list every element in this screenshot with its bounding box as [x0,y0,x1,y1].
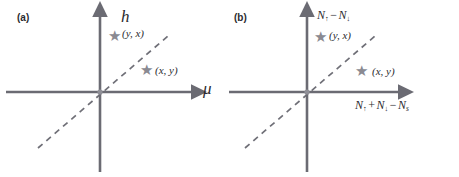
panel-b-y-n2: N [339,8,347,22]
star-icon: ★ [314,30,327,45]
panel-a-origin-marker [97,89,102,94]
panel-b-y-op1: − [329,8,339,22]
panel-b-origin-marker [304,89,309,94]
panel-b-y-n1: N [317,8,325,22]
panel-b-star-lower: ★ (x, y) [355,64,395,79]
panel-b: (b) N↑−N↓ N↑+N↓−Ns ★ (y, [229,0,459,177]
panel-b-x-n1: N [355,98,363,112]
panel-b-x-op1: + [367,98,377,112]
panel-a-star-upper-label: (y, x) [122,28,144,39]
panel-a-x-axis-label: μ [203,80,212,97]
figure-root: (a) h μ ★ (y, x) ★ (x, y) [0,0,459,177]
star-icon: ★ [355,64,368,79]
panel-a-star-lower-label: (x, y) [155,65,178,76]
panel-b-axes [229,0,459,177]
star-icon: ★ [108,29,121,44]
panel-b-x-n2: N [377,98,385,112]
panel-b-x-s3: s [406,104,409,113]
star-icon: ★ [140,63,153,78]
panel-b-star-upper: ★ (y, x) [314,30,351,45]
panel-b-star-lower-label: (x, y) [372,66,395,77]
panel-a: (a) h μ ★ (y, x) ★ (x, y) [0,0,229,177]
panel-a-star-lower: ★ (x, y) [140,63,178,78]
panel-b-x-op2: − [388,98,398,112]
panel-b-star-upper-label: (y, x) [329,30,351,41]
panel-a-star-upper: ★ (y, x) [108,28,144,44]
panel-b-x-axis-label: N↑+N↓−Ns [355,99,409,113]
panel-a-y-axis-label: h [121,8,130,25]
panel-b-x-n3: N [398,98,406,112]
panel-b-y-axis-label: N↑−N↓ [317,9,350,23]
panel-b-y-s2: ↓ [347,14,351,23]
panel-a-axes [0,0,229,177]
